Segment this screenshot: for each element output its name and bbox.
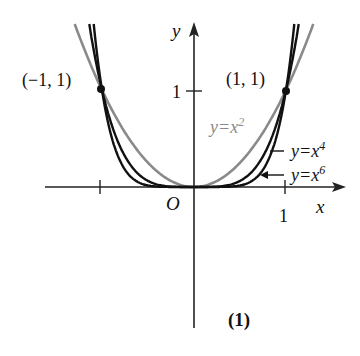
label-y-x4: y=x4 [289,139,325,161]
label-y-x2: y=x2 [208,115,244,137]
origin-label: O [166,193,180,214]
power-functions-diagram: y x O 1 1 (−1, 1) (1, 1) y=x2 y=x4 y=x6 … [0,0,360,356]
point-left-label: (−1, 1) [22,70,71,91]
x-axis-label: x [315,196,325,217]
point-neg1-1 [97,85,105,93]
figure-caption: (1) [228,309,250,331]
x-tick-label: 1 [279,206,288,226]
point-right-label: (1, 1) [226,69,265,90]
y-axis-label: y [170,20,181,41]
label-y-x6: y=x6 [289,163,325,185]
point-1-1 [282,87,290,95]
y-tick-label: 1 [172,82,181,102]
